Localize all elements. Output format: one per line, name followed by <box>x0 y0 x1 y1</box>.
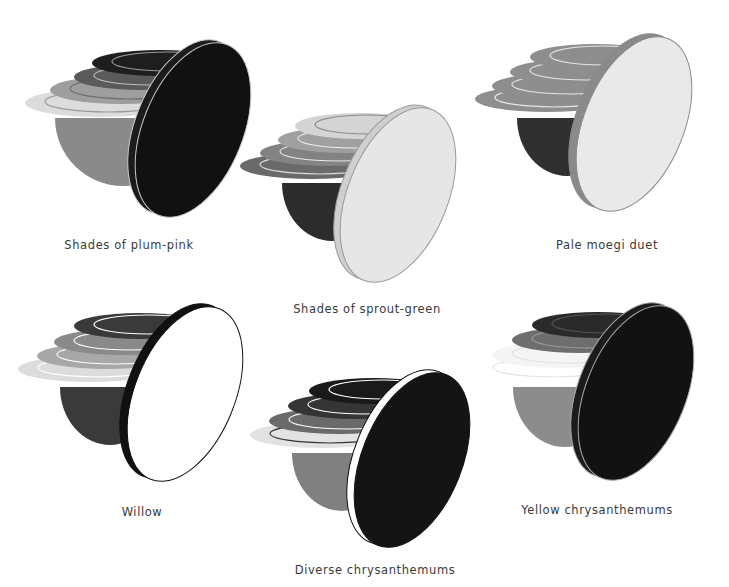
figure-pale-moegi <box>475 17 715 228</box>
caption-willow: Willow <box>122 505 163 519</box>
figure-diverse-chrysanthemums <box>250 353 493 564</box>
caption-sprout-green: Shades of sprout-green <box>293 302 441 316</box>
figure-willow <box>18 287 266 498</box>
color-scheme-diagram <box>0 0 729 587</box>
figure-plum-pink <box>25 23 274 234</box>
caption-pale-moegi: Pale moegi duet <box>556 238 658 252</box>
figure-yellow-chrysanthemums <box>473 286 717 497</box>
figure-sprout-green <box>240 88 479 299</box>
caption-plum-pink: Shades of plum-pink <box>64 238 193 252</box>
caption-diverse-chrysanthemums: Diverse chrysanthemums <box>295 563 456 577</box>
caption-yellow-chrysanthemums: Yellow chrysanthemums <box>521 503 673 517</box>
